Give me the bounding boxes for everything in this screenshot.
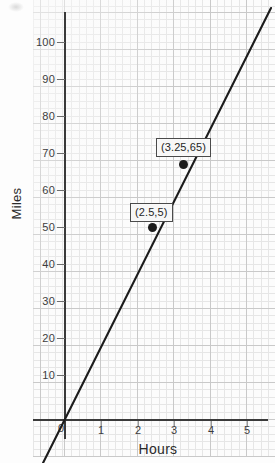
data-point-marker-1	[148, 223, 157, 232]
data-point-marker-2	[179, 160, 188, 169]
plot-area	[0, 0, 275, 463]
data-line	[43, 8, 271, 463]
data-point-callout-2: (3.25,65)	[156, 138, 211, 157]
data-point-callout-1: (2.5,5)	[130, 203, 173, 222]
chart-screenshot: 100 90 80 70 60 50 40 30 20 10 0 1 2 3 4	[0, 0, 275, 463]
